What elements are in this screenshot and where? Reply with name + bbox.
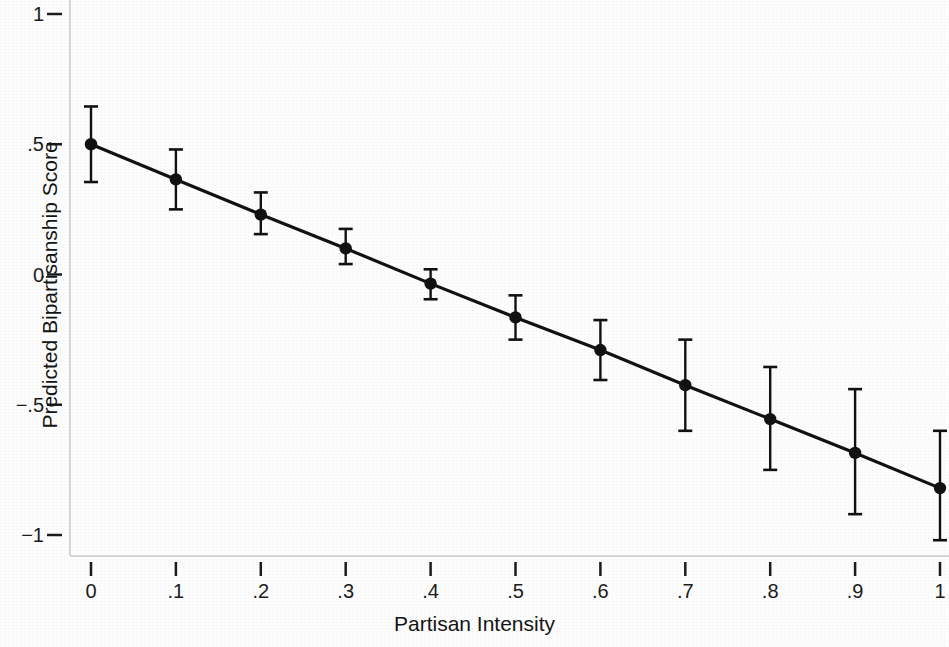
data-point-marker bbox=[85, 138, 97, 150]
x-tick-label: 1 bbox=[934, 580, 945, 603]
data-point-marker bbox=[340, 242, 352, 254]
data-point-marker bbox=[934, 482, 946, 494]
data-point-marker bbox=[849, 447, 861, 459]
x-tick-label: .7 bbox=[677, 580, 694, 603]
y-tick-label: −1 bbox=[0, 524, 44, 547]
chart-figure: 1.50−.5−1 0.1.2.3.4.5.6.7.8.91 Predicted… bbox=[0, 0, 949, 647]
plot-area bbox=[0, 0, 949, 647]
data-point-marker bbox=[594, 344, 606, 356]
data-point-marker bbox=[679, 379, 691, 391]
x-axis-title: Partisan Intensity bbox=[0, 612, 949, 636]
x-tick-label: .3 bbox=[337, 580, 354, 603]
x-tick-label: 0 bbox=[85, 580, 96, 603]
x-tick-label: .2 bbox=[252, 580, 269, 603]
y-tick-label: 1 bbox=[0, 3, 44, 26]
data-point-marker bbox=[764, 413, 776, 425]
x-tick-label: .5 bbox=[507, 580, 524, 603]
x-tick-label: .9 bbox=[847, 580, 864, 603]
data-point-marker bbox=[170, 173, 182, 185]
data-series bbox=[84, 106, 947, 540]
x-tick-label: .1 bbox=[168, 580, 185, 603]
data-point-marker bbox=[424, 277, 436, 289]
axes bbox=[47, 0, 949, 576]
x-tick-label: .6 bbox=[592, 580, 609, 603]
x-tick-label: .4 bbox=[422, 580, 439, 603]
y-axis-title: Predicted Bipartisanship Score bbox=[38, 75, 62, 495]
data-point-marker bbox=[509, 311, 521, 323]
data-point-marker bbox=[255, 208, 267, 220]
x-tick-label: .8 bbox=[762, 580, 779, 603]
